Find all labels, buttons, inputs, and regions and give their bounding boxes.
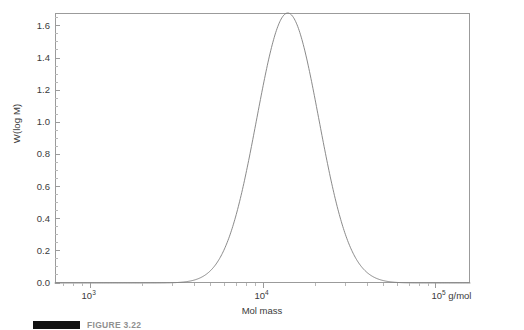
y-axis-minor-tick [55, 82, 58, 83]
x-axis-minor-tick [255, 283, 256, 286]
y-axis-minor-tick [55, 106, 58, 107]
y-axis-major-tick [55, 250, 60, 251]
y-axis-minor-tick [55, 162, 58, 163]
y-axis-tick-label: 1.6 [20, 21, 50, 31]
y-axis-minor-tick [55, 138, 58, 139]
y-axis-minor-tick [55, 98, 58, 99]
x-axis-minor-tick [345, 283, 346, 286]
y-axis-major-tick [55, 90, 60, 91]
y-axis-minor-tick [55, 66, 58, 67]
y-axis-minor-tick [55, 33, 58, 34]
x-axis-minor-tick [409, 283, 410, 286]
distribution-curve-svg [55, 13, 470, 283]
x-axis-minor-tick [63, 283, 64, 286]
x-axis-minor-tick [142, 283, 143, 286]
x-axis-minor-tick [82, 283, 83, 286]
x-axis-minor-tick [419, 283, 420, 286]
x-axis-minor-tick [236, 283, 237, 286]
y-axis-minor-tick [55, 170, 58, 171]
x-axis-title: Mol mass [0, 305, 524, 316]
y-axis-tick-label: 1.4 [20, 53, 50, 63]
y-axis-tick-label: 0.8 [20, 149, 50, 159]
x-axis-minor-tick [172, 283, 173, 286]
figure-caption-bar [33, 321, 80, 329]
y-axis-major-tick [55, 154, 60, 155]
distribution-curve [55, 13, 470, 283]
y-axis-minor-tick [55, 194, 58, 195]
y-axis-tick-label: 0.6 [20, 182, 50, 192]
y-axis-minor-tick [55, 242, 58, 243]
x-axis-major-tick [435, 283, 436, 288]
y-axis-major-tick [55, 122, 60, 123]
x-axis-minor-tick [194, 283, 195, 286]
y-axis-tick-labels: 0.00.20.40.60.81.01.21.41.6 [18, 0, 50, 328]
x-axis-tick-label: 104 [254, 290, 268, 301]
x-axis-minor-tick [383, 283, 384, 286]
y-axis-major-tick [55, 25, 60, 26]
figure-caption: FIGURE 3.22 [33, 320, 141, 329]
y-axis-major-tick [55, 186, 60, 187]
y-axis-minor-tick [55, 130, 58, 131]
y-axis-minor-tick [55, 17, 58, 18]
y-axis-minor-tick [55, 178, 58, 179]
x-axis-tick-label: 103 [82, 290, 96, 301]
y-axis-minor-tick [55, 258, 58, 259]
y-axis-minor-tick [55, 202, 58, 203]
y-axis-tick-label: 1.2 [20, 85, 50, 95]
x-axis-minor-tick [397, 283, 398, 286]
x-axis-minor-tick [315, 283, 316, 286]
y-axis-minor-tick [55, 210, 58, 211]
y-axis-minor-tick [55, 274, 58, 275]
x-axis-minor-tick [73, 283, 74, 286]
x-axis-major-tick [90, 283, 91, 288]
x-axis-minor-tick [224, 283, 225, 286]
y-axis-tick-label: 0.4 [20, 214, 50, 224]
y-axis-minor-tick [55, 146, 58, 147]
y-axis-major-tick [55, 218, 60, 219]
y-axis-major-tick [55, 283, 60, 284]
x-axis-minor-tick [367, 283, 368, 286]
y-axis-tick-label: 0.0 [20, 278, 50, 288]
y-axis-tick-label: 0.2 [20, 246, 50, 256]
y-axis-minor-tick [55, 266, 58, 267]
x-axis-minor-tick [210, 283, 211, 286]
y-axis-minor-tick [55, 114, 58, 115]
y-axis-minor-tick [55, 41, 58, 42]
y-axis-minor-tick [55, 49, 58, 50]
y-axis-minor-tick [55, 234, 58, 235]
figure-caption-label: FIGURE 3.22 [87, 320, 141, 330]
x-axis-minor-tick [428, 283, 429, 286]
y-axis-minor-tick [55, 74, 58, 75]
x-axis-major-tick [263, 283, 264, 288]
x-axis-minor-tick [246, 283, 247, 286]
y-axis-major-tick [55, 58, 60, 59]
y-axis-tick-label: 1.0 [20, 117, 50, 127]
y-axis-minor-tick [55, 226, 58, 227]
x-axis-tick-label: 105 g/mol [431, 290, 471, 301]
